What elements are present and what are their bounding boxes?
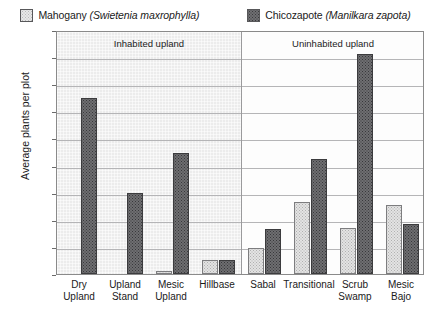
x-tick-label: Scrub Swamp bbox=[338, 279, 371, 302]
x-tick-label: Dry Upland bbox=[63, 279, 95, 302]
bar-chicozapote-mesic-bajo bbox=[403, 224, 419, 274]
bar-chicozapote-upland-stand bbox=[127, 193, 143, 274]
bar-group bbox=[149, 32, 195, 274]
bar-chicozapote-scrub-swamp bbox=[357, 54, 373, 274]
x-tick-label: Sabal bbox=[250, 279, 276, 291]
bar-chicozapote-hillbase bbox=[219, 260, 235, 274]
bar-chicozapote-dry-upland bbox=[81, 98, 97, 274]
annotation-uninhabited-upland: Uninhabited upland bbox=[292, 38, 374, 49]
bar-mahogany-mesic-bajo bbox=[386, 205, 402, 274]
annotation-inhabited-upland: Inhabited upland bbox=[114, 38, 184, 49]
bar-group bbox=[379, 32, 425, 274]
bar-chicozapote-mesic-upland bbox=[173, 153, 189, 274]
bar-group bbox=[333, 32, 379, 274]
bar-mahogany-hillbase bbox=[202, 260, 218, 274]
bar-chart: Mahogany (Swietenia maxrophylla) Chicoza… bbox=[0, 0, 431, 318]
bar-group bbox=[103, 32, 149, 274]
bar-chicozapote-transitional bbox=[311, 159, 327, 274]
bar-mahogany-sabal bbox=[248, 248, 264, 274]
bar-mahogany-scrub-swamp bbox=[340, 228, 356, 274]
x-tick-label: Mesic Bajo bbox=[388, 279, 414, 302]
bar-chicozapote-sabal bbox=[265, 229, 281, 274]
bar-group bbox=[195, 32, 241, 274]
bar-group bbox=[57, 32, 103, 274]
x-tick-label: Upland Stand bbox=[109, 279, 141, 302]
bars-layer bbox=[57, 32, 423, 274]
x-axis-labels: Dry UplandUpland StandMesic UplandHillba… bbox=[56, 279, 424, 318]
plot-area: Inhabited upland Uninhabited upland bbox=[56, 31, 424, 275]
bar-mahogany-mesic-upland bbox=[156, 271, 172, 274]
bar-group bbox=[287, 32, 333, 274]
x-tick-label: Transitional bbox=[283, 279, 334, 291]
x-tick-label: Hillbase bbox=[199, 279, 235, 291]
x-tick-label: Mesic Upland bbox=[155, 279, 187, 302]
bar-group bbox=[241, 32, 287, 274]
bar-mahogany-transitional bbox=[294, 202, 310, 274]
y-tick-mark bbox=[52, 275, 56, 276]
